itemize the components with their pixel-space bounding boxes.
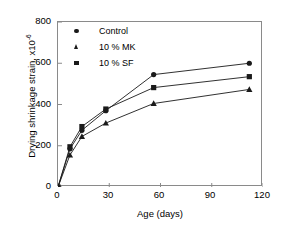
x-tick-label-120: 120 [247,190,277,200]
square-marker-icon [70,57,86,68]
legend-item-sf: 10 % SF [70,56,136,69]
data-point-square [151,85,156,90]
chart-figure: Drying shrinkage strain, x10-6 800 600 4… [0,0,287,237]
legend-label-sf: 10 % SF [86,58,134,68]
chart-legend: Control 10 % MK 10 % SF [70,24,136,72]
data-series-layer [58,61,252,187]
data-point-square [103,106,108,111]
y-tick-label-200: 200 [17,140,51,150]
data-point-triangle [246,86,252,92]
data-point-triangle [103,120,109,126]
series-square [58,74,252,187]
series-triangle [58,86,252,187]
legend-item-mk: 10 % MK [70,40,136,53]
x-tick-label-30: 30 [93,190,123,200]
x-axis-title: Age (days) [57,208,263,219]
y-tick-label-800: 800 [17,16,51,26]
legend-label-mk: 10 % MK [86,42,136,52]
y-tick-label-600: 600 [17,57,51,67]
data-point-square [79,124,84,129]
x-tick-label-0: 0 [42,190,72,200]
data-point-square [58,184,61,187]
data-point-circle [247,61,252,66]
x-tick-label-60: 60 [144,190,174,200]
legend-label-control: Control [86,26,128,36]
x-tick-label-90: 90 [195,190,225,200]
triangle-marker-icon [70,41,86,52]
data-point-square [247,74,252,79]
data-point-square [67,144,72,149]
legend-item-control: Control [70,24,136,37]
circle-marker-icon [70,25,86,36]
data-point-circle [151,72,156,77]
y-tick-label-400: 400 [17,99,51,109]
series-line [58,63,249,187]
